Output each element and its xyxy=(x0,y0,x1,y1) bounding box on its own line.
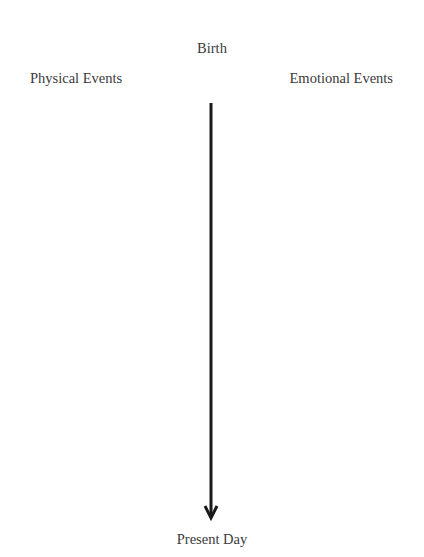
timeline-arrow xyxy=(0,0,424,557)
present-day-label: Present Day xyxy=(0,531,424,548)
